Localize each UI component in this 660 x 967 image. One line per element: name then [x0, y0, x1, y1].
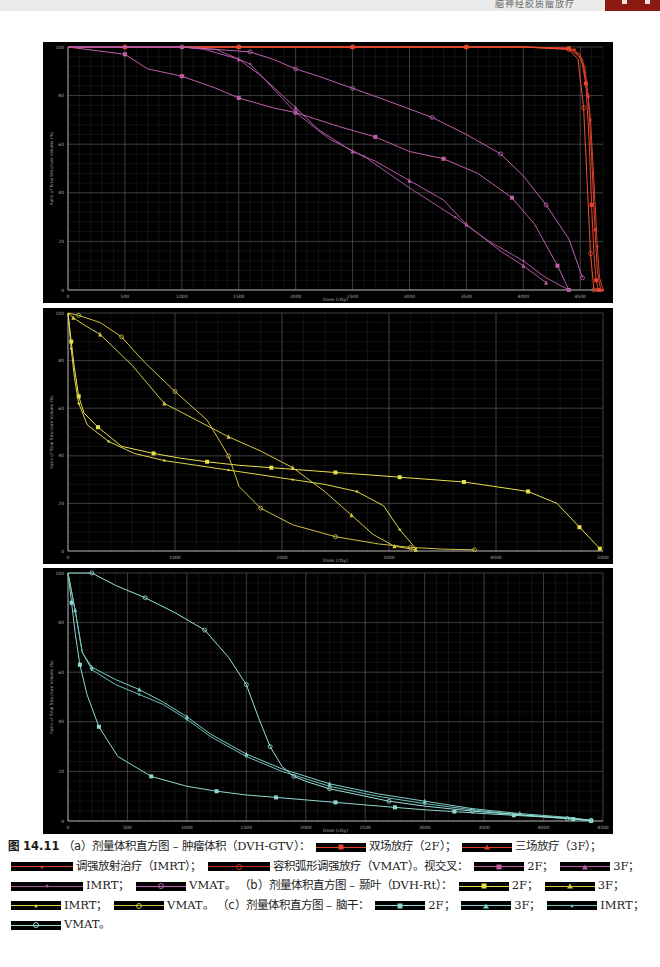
figure-caption: 图 14.11 （a）剂量体积直方图 – 肿瘤体积（DVH-GTV）： 双场放疗… [8, 837, 653, 935]
legend-swatch-bs-imrt [547, 901, 597, 910]
legend-label-bs-2f: 2F； [428, 898, 454, 912]
x-tick-label: 3500 [461, 294, 473, 299]
data-point-marker [70, 348, 72, 350]
data-point-marker [602, 289, 604, 291]
data-point-marker [98, 332, 102, 337]
x-tick-label: 1000 [181, 825, 193, 830]
legend-label-rt-vmat: VMAT。 [167, 898, 213, 912]
legend-label-bs-vmat: VMAT。 [64, 917, 110, 931]
legend-label-chiasm-imrt: IMRT； [86, 878, 129, 892]
x-tick-label: 3000 [404, 294, 416, 299]
circle-marker-icon [136, 903, 142, 909]
y-tick-label: 60 [58, 670, 64, 675]
series-line [68, 47, 601, 290]
legend-label-gtv-imrt: 调强放射治疗（IMRT）； [76, 859, 201, 873]
data-point-marker [97, 725, 101, 729]
legend-swatch-chiasm-vmat [136, 882, 186, 891]
circle-marker-icon [236, 864, 242, 870]
legend-swatch-rt-2f [459, 882, 509, 891]
x-tick-label: 0 [67, 555, 70, 560]
x-tick-label: 4500 [575, 294, 587, 299]
square-marker-icon [339, 845, 344, 850]
data-point-marker [249, 63, 251, 65]
x-tick-label: 0 [67, 825, 70, 830]
data-point-marker [598, 547, 602, 551]
grid [68, 313, 603, 551]
triangle-marker-icon [483, 903, 489, 908]
series-rt-imrt [68, 313, 417, 550]
legend-swatch-bs-3f [461, 901, 511, 910]
y-tick-label: 80 [58, 358, 64, 363]
data-point-marker [149, 774, 153, 778]
data-point-marker [356, 490, 358, 492]
data-point-marker [590, 203, 594, 207]
data-point-marker [78, 663, 82, 667]
x-tick-label: 4000 [538, 825, 550, 830]
dot-marker-icon [35, 904, 38, 907]
legend-label-chiasm-2f: 2F； [527, 859, 553, 873]
legend-label-gtv-2f: 双场放疗（2F）； [369, 839, 455, 853]
y-tick-label: 60 [58, 142, 64, 147]
data-point-marker [152, 451, 156, 455]
dot-marker-icon [571, 904, 574, 907]
legend-label-gtv-3f: 三场放疗（3F）； [515, 839, 601, 853]
y-tick-label: 80 [58, 620, 64, 625]
triangle-marker-icon [582, 864, 588, 869]
data-point-marker [398, 475, 402, 479]
y-tick-label: 20 [58, 239, 64, 244]
y-tick-label: 40 [58, 719, 64, 724]
data-point-marker [544, 280, 548, 285]
data-point-marker [205, 460, 209, 464]
legend-swatch-rt-vmat [114, 901, 164, 910]
square-marker-icon [497, 864, 502, 869]
x-tick-label: 2500 [347, 294, 359, 299]
x-tick-label: 0 [67, 294, 70, 299]
series-line [68, 47, 603, 290]
data-point-marker [107, 440, 109, 442]
legend-label-rt-2f: 2F； [512, 878, 538, 892]
x-axis-label: Dose (cGy) [323, 828, 348, 833]
series-line [68, 313, 416, 549]
chart-dvh-rt: 010002000300040005000020406080100Dose (c… [43, 308, 613, 564]
data-point-marker [69, 340, 73, 344]
x-axis-label: Dose (cGy) [323, 558, 348, 563]
y-tick-label: 0 [61, 549, 64, 554]
x-tick-label: 2000 [300, 825, 312, 830]
tab-notch [645, 0, 650, 4]
data-point-marker [522, 260, 524, 262]
dot-marker-icon [46, 885, 49, 888]
legend-group-chiasm: 视交叉： [424, 859, 468, 873]
legend-swatch-rt-imrt [11, 901, 61, 910]
data-point-marker [462, 480, 466, 484]
data-point-marker [245, 755, 247, 757]
y-tick-label: 0 [61, 819, 64, 824]
x-tick-label: 2000 [276, 555, 288, 560]
y-tick-label: 40 [58, 453, 64, 458]
x-tick-label: 1500 [233, 294, 245, 299]
x-tick-label: 4000 [518, 294, 530, 299]
data-point-marker [423, 802, 425, 804]
square-marker-icon [481, 884, 486, 889]
chapter-tab [605, 0, 660, 11]
legend-label-chiasm-3f: 3F； [613, 859, 639, 873]
series-chiasm-vmat [68, 45, 585, 280]
legend-swatch-bs-vmat [11, 921, 61, 930]
y-tick-label: 100 [55, 571, 64, 576]
x-tick-label: 1000 [169, 555, 181, 560]
legend-swatch-gtv-imrt [11, 862, 73, 871]
caption-label-c: （c） [217, 898, 245, 912]
caption-label-b: （b） [239, 878, 268, 892]
caption-title-c: 剂量体积直方图 – 脑干： [246, 898, 369, 912]
circle-marker-icon [158, 883, 164, 889]
triangle-marker-icon [567, 884, 573, 889]
x-axis-label: Dose (cGy) [323, 297, 348, 302]
series-chiasm-2f [68, 47, 571, 292]
data-point-marker [96, 425, 100, 429]
y-tick-label: 60 [58, 406, 64, 411]
series-rt-vmat [68, 313, 477, 552]
legend-label-gtv-vmat: 容积弧形调强放疗（VMAT）。 [273, 859, 423, 873]
data-point-marker [399, 528, 401, 530]
y-tick-label: 20 [58, 501, 64, 506]
series-gtv-3f [68, 45, 603, 293]
data-point-marker [589, 119, 591, 121]
